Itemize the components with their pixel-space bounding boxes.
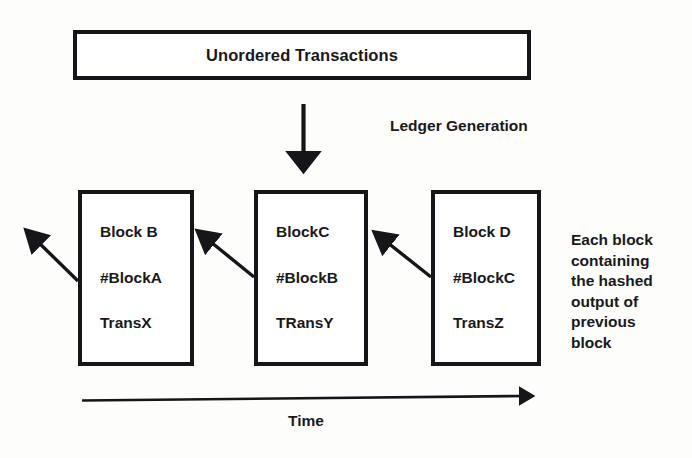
block-name: Block B [100,224,190,240]
block-transaction: TRansY [276,315,364,331]
block-node-3: Block D #BlockC TransZ [431,190,541,366]
chain-arrow-2 [206,238,254,277]
annotation-line: containing [571,251,689,272]
annotation-line: previous [571,312,689,333]
block-name: Block D [453,224,537,240]
annotation-line: the hashed [571,271,689,292]
annotation-line: block [571,333,689,354]
block-transaction: TransX [100,315,190,331]
diagram-canvas: Unordered Transactions Ledger Generation… [0,0,692,458]
block-prev-hash: #BlockC [453,270,537,286]
unordered-transactions-label: Unordered Transactions [206,46,398,65]
block-name: BlockC [276,224,364,240]
block-transaction: TransZ [453,315,537,331]
block-node-2: BlockC #BlockB TRansY [254,190,368,366]
hash-chain-annotation: Each block containing the hashed output … [571,230,689,353]
chain-arrow-1 [34,238,78,281]
ledger-generation-label: Ledger Generation [390,117,528,135]
time-axis-label: Time [0,412,612,430]
unordered-transactions-box: Unordered Transactions [73,30,531,80]
timeline-arrow [82,396,524,401]
block-node-1: Block B #BlockA TransX [78,190,194,366]
annotation-line: output of [571,292,689,313]
block-prev-hash: #BlockA [100,270,190,286]
block-prev-hash: #BlockB [276,270,364,286]
chain-arrow-3 [383,239,431,277]
annotation-line: Each block [571,230,689,251]
